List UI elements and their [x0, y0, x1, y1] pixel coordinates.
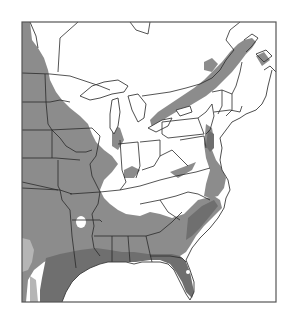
lake-huron — [128, 94, 146, 122]
light-range-strip — [30, 276, 38, 302]
range-gap — [186, 270, 190, 274]
range-map — [0, 0, 298, 317]
range-gap — [76, 216, 86, 228]
